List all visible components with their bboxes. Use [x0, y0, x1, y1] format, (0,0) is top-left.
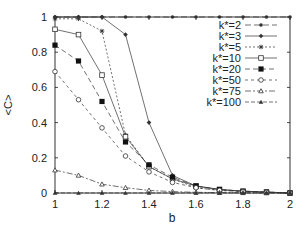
x-tick-label: 1.6	[188, 198, 203, 210]
marker-open-triangle	[53, 168, 58, 172]
marker-star	[53, 16, 58, 21]
marker-open-circle	[170, 180, 175, 185]
marker-dot	[171, 15, 175, 19]
marker-open-circle	[147, 170, 152, 175]
marker-filled-square	[258, 66, 263, 71]
marker-open-triangle	[76, 173, 81, 177]
y-tick-label: 0.4	[32, 117, 47, 129]
series-line	[55, 29, 290, 193]
marker-open-circle	[259, 78, 264, 83]
marker-dot	[241, 15, 245, 19]
marker-filled-square	[76, 58, 81, 63]
marker-open-square	[76, 32, 81, 37]
y-tick-label: 0	[41, 187, 47, 199]
y-tick-label: 0.2	[32, 152, 47, 164]
marker-open-circle	[100, 126, 105, 131]
marker-open-square	[123, 134, 128, 139]
plot-frame	[55, 17, 290, 193]
marker-star	[76, 16, 81, 21]
series-k-100	[53, 191, 293, 195]
marker-diamond	[259, 34, 264, 39]
marker-dot	[124, 15, 128, 19]
data-series	[52, 15, 292, 196]
y-tick-label: 1	[41, 11, 47, 23]
legend: k*=2k*=3k*=5k*=10k*=20k*=50k*=75k*=100	[206, 19, 277, 108]
series-line	[55, 17, 290, 193]
marker-dot	[265, 15, 269, 19]
marker-open-circle	[53, 69, 58, 74]
marker-star	[259, 45, 264, 50]
x-tick-label: 2	[287, 198, 293, 210]
y-axis-label: <C>	[2, 95, 14, 116]
marker-open-triangle	[100, 182, 105, 186]
marker-dot	[147, 15, 151, 19]
marker-filled-square	[99, 99, 104, 104]
marker-filled-square	[170, 175, 175, 180]
plot-axes: 11.21.41.61.8200.20.40.60.81	[32, 11, 293, 210]
marker-open-circle	[76, 97, 81, 102]
y-tick-label: 0.8	[32, 46, 47, 58]
marker-open-circle	[123, 154, 128, 159]
marker-dot	[194, 15, 198, 19]
marker-diamond	[147, 120, 152, 125]
legend-item: k*=100	[206, 96, 277, 108]
marker-open-square	[100, 73, 105, 78]
series-k-3	[53, 15, 293, 196]
marker-filled-square	[52, 43, 57, 48]
line-chart: 11.21.41.61.8200.20.40.60.81 k*=2k*=3k*=…	[0, 0, 307, 237]
marker-star	[100, 29, 105, 34]
x-tick-label: 1.8	[235, 198, 250, 210]
series-k-5	[53, 16, 293, 195]
marker-dot	[259, 23, 263, 27]
marker-open-triangle	[123, 185, 128, 189]
marker-open-square	[259, 56, 264, 61]
marker-open-square	[53, 27, 58, 32]
x-tick-label: 1	[52, 198, 58, 210]
series-line	[55, 45, 290, 193]
x-axis-label: b	[169, 211, 176, 225]
marker-filled-square	[146, 162, 151, 167]
series-k-10	[53, 27, 293, 195]
series-line	[55, 19, 290, 193]
y-tick-label: 0.6	[32, 81, 47, 93]
x-tick-label: 1.2	[94, 198, 109, 210]
marker-dot	[288, 15, 292, 19]
legend-label: k*=100	[206, 96, 241, 108]
x-tick-label: 1.4	[141, 198, 156, 210]
series-k-20	[52, 43, 292, 196]
marker-filled-square	[123, 139, 128, 144]
